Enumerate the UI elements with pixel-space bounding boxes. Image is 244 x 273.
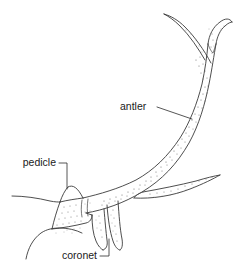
top-fork-left-tine-outer [164,14,205,60]
antler-label: antler [120,100,147,112]
pedicle-right-slope [68,186,83,198]
coronet-top-line [60,198,83,202]
brow-tine [92,201,122,250]
main-beam-upper-edge [83,44,208,198]
leader-lines [59,107,192,256]
skull-left-line [12,196,60,202]
brow-tine-left-edge [92,215,103,250]
top-fork-tine [164,14,232,63]
pedicle-leader-line [59,163,67,189]
main-beam-lower-edge [86,44,216,213]
coronet-bottom-line [52,215,92,229]
main-beam [83,44,216,213]
top-fork-left-tine-inner [164,14,211,63]
antler-diagram-canvas: antler pedicle coronet [0,0,244,273]
middle-tine-junction [134,192,143,198]
top-fork-right-tine-inner [216,22,232,44]
middle-tine-lower-edge [134,175,220,198]
brow-tine-right-edge [103,209,107,250]
coronet-division-1 [81,200,82,217]
middle-tine [134,175,220,198]
pedicle-label: pedicle [23,156,56,168]
coronet-left-edge [52,202,60,229]
antler-leader-line [157,107,192,119]
coronet-ridge [52,198,92,229]
antler-diagram: antler pedicle coronet [0,0,244,273]
coronet-right-edge [86,213,92,215]
coronet-label: coronet [62,249,97,261]
brow-tine-outer-right-edge [118,201,122,250]
